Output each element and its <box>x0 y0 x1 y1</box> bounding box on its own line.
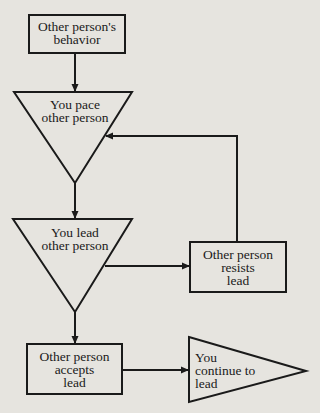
node-lead-label: You lead other person <box>24 226 126 252</box>
node-resists-label: Other person resists lead <box>190 248 286 287</box>
node-continue-label: You continue to lead <box>195 351 295 390</box>
node-accepts-label: Other person accepts lead <box>27 350 122 389</box>
node-behavior-label: Other person's behavior <box>29 20 125 46</box>
node-pace-label: You pace other person <box>24 98 126 124</box>
